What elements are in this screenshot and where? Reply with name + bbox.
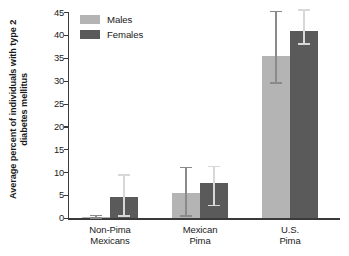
error-bar-cap-upper (180, 167, 192, 168)
error-bar-line (275, 12, 276, 83)
bar-u-s-pima-females (290, 31, 318, 218)
y-tick-20: 20 (38, 122, 64, 132)
error-bar-cap-lower (118, 215, 130, 216)
y-tick-30: 30 (38, 76, 64, 86)
error-bar-line (123, 175, 124, 216)
x-category-0-line2: Mexicans (62, 235, 158, 246)
y-tick-5: 5 (38, 190, 64, 200)
y-tick-0: 0 (38, 213, 64, 223)
error-bar-cap-upper (208, 166, 220, 167)
y-tickmark-0 (64, 218, 68, 219)
error-bar-line (303, 10, 304, 44)
error-bar-cap-lower (298, 43, 310, 44)
error-bar-cap-upper (118, 174, 130, 175)
legend-label-females: Females (107, 30, 143, 40)
x-category-0-line1: Non-Pima (62, 224, 158, 235)
x-category-2-line1: U.S. (242, 224, 338, 235)
legend-label-males: Males (107, 15, 132, 25)
legend-swatch-females (80, 30, 100, 39)
y-axis-title-line1: Average percent of individuals with (8, 48, 18, 199)
error-bar-cap-lower (180, 215, 192, 216)
legend-item-females: Females (80, 28, 190, 41)
error-bar-line (185, 168, 186, 217)
y-tick-45: 45 (38, 8, 64, 18)
x-category-2-line2: Pima (242, 235, 338, 246)
x-category-label-2: U.S. Pima (242, 224, 338, 246)
error-bar-cap-lower (90, 217, 102, 218)
error-bar-cap-lower (208, 205, 220, 206)
legend-item-males: Males (80, 13, 190, 26)
y-axis-tick-labels: 45 40 35 30 25 20 15 10 5 0 (38, 0, 64, 230)
error-bar-line (213, 167, 214, 206)
error-bar-cap-lower (270, 82, 282, 83)
y-axis-title: Average percent of individuals with type… (0, 0, 34, 230)
y-tick-10: 10 (38, 168, 64, 178)
error-bar-cap-upper (270, 11, 282, 12)
bar-chart: Average percent of individuals with type… (0, 0, 349, 256)
error-bar-cap-upper (298, 9, 310, 10)
x-category-label-1: Mexican Pima (152, 224, 248, 246)
y-tick-40: 40 (38, 30, 64, 40)
y-tick-15: 15 (38, 145, 64, 155)
y-tick-35: 35 (38, 53, 64, 63)
x-category-label-0: Non-Pima Mexicans (62, 224, 158, 246)
error-bar-cap-upper (90, 215, 102, 216)
legend-swatch-males (80, 15, 100, 24)
x-category-1-line2: Pima (152, 235, 248, 246)
x-axis-line (68, 218, 340, 220)
legend: Males Females (80, 13, 190, 43)
x-category-1-line1: Mexican (152, 224, 248, 235)
y-tick-25: 25 (38, 99, 64, 109)
